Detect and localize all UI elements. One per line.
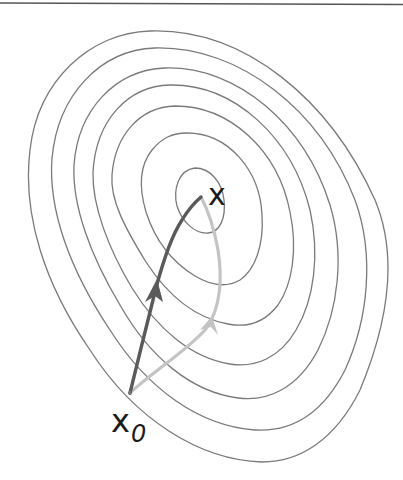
start-label: x0 bbox=[111, 405, 146, 446]
contour-4 bbox=[93, 85, 315, 365]
start-label-base: x bbox=[111, 402, 130, 440]
curved-path-line bbox=[130, 197, 220, 393]
start-label-subscript: 0 bbox=[131, 420, 146, 448]
contour-3 bbox=[112, 106, 294, 325]
contour-diagram bbox=[0, 0, 403, 480]
curved-path bbox=[130, 197, 220, 393]
start-point bbox=[128, 391, 132, 395]
top-rule bbox=[0, 3, 403, 5]
contour-lines bbox=[28, 31, 387, 462]
optimum-label: x bbox=[208, 180, 226, 210]
contour-2 bbox=[141, 133, 262, 285]
contour-6 bbox=[52, 48, 367, 430]
optimum-label-text: x bbox=[208, 177, 226, 212]
contour-7 bbox=[28, 31, 387, 462]
